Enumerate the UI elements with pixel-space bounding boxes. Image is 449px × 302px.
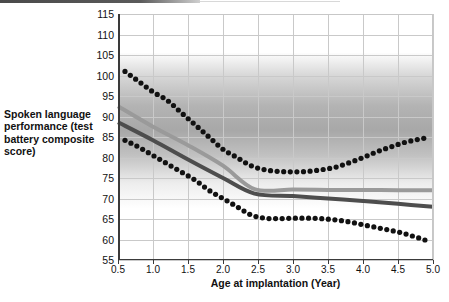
gridline-vertical bbox=[433, 14, 434, 260]
y-tick-label: 90 bbox=[74, 111, 114, 123]
gridline-horizontal bbox=[118, 260, 433, 261]
x-tick-label: 0.5 bbox=[98, 264, 138, 275]
x-tick-label: 4.5 bbox=[378, 264, 418, 275]
scan-artifact-bar-faint bbox=[200, 1, 340, 2]
y-tick-label: 100 bbox=[74, 70, 114, 82]
y-tick-label: 70 bbox=[74, 193, 114, 205]
x-tick-label: 3.0 bbox=[273, 264, 313, 275]
y-tick-label: 65 bbox=[74, 213, 114, 225]
y-tick-label: 85 bbox=[74, 131, 114, 143]
y-tick-label: 115 bbox=[74, 8, 114, 20]
scan-artifact-bar bbox=[0, 0, 200, 3]
y-tick-label: 110 bbox=[74, 29, 114, 41]
x-axis-label: Age at implantation (Year) bbox=[118, 277, 433, 289]
x-tick-label: 2.0 bbox=[203, 264, 243, 275]
y-axis-line bbox=[118, 14, 120, 260]
plot-frame bbox=[118, 14, 433, 260]
y-tick-label: 95 bbox=[74, 90, 114, 102]
figure-container: Spoken language performance (test batter… bbox=[0, 0, 449, 302]
x-tick-label: 4.0 bbox=[343, 264, 383, 275]
y-tick-label: 75 bbox=[74, 172, 114, 184]
x-tick-label: 1.5 bbox=[168, 264, 208, 275]
y-tick-label: 105 bbox=[74, 49, 114, 61]
plot-area bbox=[118, 14, 433, 260]
x-tick-label: 5.0 bbox=[413, 264, 449, 275]
x-tick-label: 1.0 bbox=[133, 264, 173, 275]
x-tick-label: 3.5 bbox=[308, 264, 348, 275]
y-tick-label: 60 bbox=[74, 234, 114, 246]
x-tick-label: 2.5 bbox=[238, 264, 278, 275]
x-axis-line bbox=[118, 259, 433, 261]
y-tick-label: 80 bbox=[74, 152, 114, 164]
